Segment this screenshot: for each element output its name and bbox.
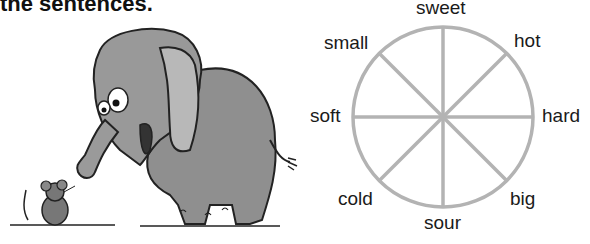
elephant-mouse-illustration (0, 20, 300, 244)
label-sour: sour (424, 212, 461, 234)
label-big: big (510, 188, 535, 210)
label-hot: hot (514, 30, 540, 52)
mouse-icon (24, 180, 75, 225)
elephant-icon (77, 29, 297, 224)
label-soft: soft (310, 105, 341, 127)
wheel-lines (353, 27, 533, 207)
label-small: small (324, 32, 368, 54)
label-sweet: sweet (416, 0, 466, 19)
exercise-heading: the sentences. (0, 0, 153, 17)
label-hard: hard (542, 105, 580, 127)
label-cold: cold (338, 188, 373, 210)
